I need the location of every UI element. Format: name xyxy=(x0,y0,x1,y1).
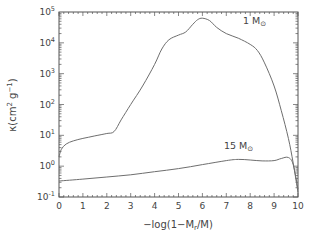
x-tick-label: 5 xyxy=(176,201,182,211)
axis-ticks xyxy=(59,12,298,197)
x-axis-title: −log(1−Mr/M) xyxy=(143,219,213,232)
x-tick-labels: 012345678910 xyxy=(56,201,304,211)
axes-box xyxy=(59,12,298,197)
series-annotation: 1 M⊙ xyxy=(243,15,266,28)
x-tick-label: 7 xyxy=(223,201,229,211)
x-tick-label: 6 xyxy=(200,201,206,211)
x-tick-label: 0 xyxy=(56,201,62,211)
x-tick-label: 4 xyxy=(152,201,158,211)
x-tick-label: 9 xyxy=(271,201,277,211)
x-tick-label: 10 xyxy=(292,201,304,211)
y-tick-label: 104 xyxy=(39,36,55,48)
series-line xyxy=(59,18,298,192)
y-tick-label: 100 xyxy=(39,159,55,171)
x-tick-label: 3 xyxy=(128,201,134,211)
y-tick-label: 101 xyxy=(39,128,55,140)
data-series xyxy=(59,18,298,192)
y-tick-labels: 10510410310210110010-1 xyxy=(37,5,55,202)
y-tick-label: 10-1 xyxy=(37,190,55,202)
x-tick-label: 1 xyxy=(80,201,86,211)
y-tick-label: 102 xyxy=(39,98,55,110)
series-annotation: 15 M⊙ xyxy=(224,140,253,153)
series-line xyxy=(59,157,298,189)
x-tick-label: 2 xyxy=(104,201,110,211)
x-tick-label: 8 xyxy=(247,201,253,211)
plot-frame xyxy=(59,12,298,197)
series-annotations: 1 M⊙15 M⊙ xyxy=(224,15,266,153)
y-tick-label: 103 xyxy=(39,67,55,79)
opacity-profile-chart: 012345678910 10510410310210110010-1 1 M⊙… xyxy=(0,0,317,236)
y-axis-title: κ(cm2 g−1) xyxy=(6,78,18,131)
y-tick-label: 105 xyxy=(39,5,55,17)
